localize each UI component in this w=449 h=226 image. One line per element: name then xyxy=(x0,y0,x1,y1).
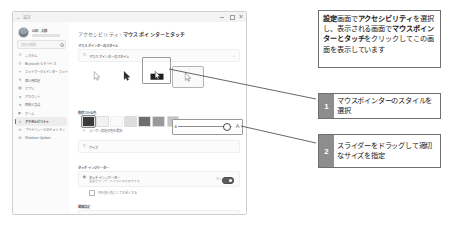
cursor-custom-icon xyxy=(185,72,192,82)
color-swatch[interactable] xyxy=(110,116,123,127)
accessibility-icon: ♿ xyxy=(18,120,22,124)
checkbox-label: 円を濃い色にして大きくする xyxy=(98,191,137,195)
chevron-down-icon[interactable]: ⌄ xyxy=(232,54,235,58)
sidebar-item-gaming[interactable]: ▶ ゲーム xyxy=(15,109,67,117)
sidebar-item-label: ゲーム xyxy=(25,111,34,116)
avatar xyxy=(18,27,29,38)
content-pane: アクセシビリティ›マウス ポインターとタッチ マウス ポインターのスタイル ⎋ … xyxy=(69,22,246,214)
color-swatches xyxy=(82,116,179,127)
step-text: スライダーをドラッグして適切なサイズを指定 xyxy=(334,135,440,167)
step-text: マウスポインターのスタイルを選択 xyxy=(334,94,440,118)
sidebar-item-bluetooth-devices[interactable]: ◎ Bluetooth とデバイス xyxy=(15,59,67,67)
window-controls xyxy=(219,14,244,19)
clock-icon: ★ xyxy=(18,103,22,107)
network-icon: ⌖ xyxy=(18,70,22,74)
sidebar-item-label: Windows Update xyxy=(25,136,51,140)
slider-thumb[interactable] xyxy=(223,123,231,131)
brush-icon: ✎ xyxy=(18,78,22,82)
touch-indicator-toggle[interactable] xyxy=(222,177,234,184)
color-swatch[interactable] xyxy=(96,116,109,127)
sidebar-item-label: システム xyxy=(25,53,37,58)
sidebar-item-privacy-security[interactable]: ⊖ プライバシーとセキュリティ xyxy=(15,126,67,134)
breadcrumb-parent[interactable]: アクセシビリティ xyxy=(78,31,119,37)
color-swatch[interactable] xyxy=(82,116,95,127)
sidebar-item-label: プライバシーとセキュリティ xyxy=(25,127,65,132)
color-swatch[interactable] xyxy=(138,116,151,127)
touch-icon: ◉ xyxy=(83,175,88,180)
checkbox[interactable] xyxy=(89,190,95,196)
gaming-icon: ▶ xyxy=(18,111,22,115)
window-title: 設定 xyxy=(23,14,31,20)
sidebar-item-label: 時刻と言語 xyxy=(25,102,40,107)
highlight-box-slider: A A xyxy=(172,119,243,135)
back-arrow-icon[interactable]: ← xyxy=(16,15,21,20)
search-icon xyxy=(60,43,63,46)
step-number: 1 xyxy=(319,94,334,118)
annotation-step-1: 1 マウスポインターのスタイルを選択 xyxy=(318,93,441,119)
touch-circle-checkbox-row[interactable]: 円を濃い色にして大きくする xyxy=(89,190,137,196)
shield-icon: ⊖ xyxy=(18,128,22,132)
system-icon: ☰ xyxy=(18,53,22,57)
sidebar-item-label: アカウント xyxy=(25,94,40,99)
custom-color-label: ユーザー設定の色を選択 xyxy=(89,128,122,133)
sidebar-item-apps[interactable]: ▤ アプリ xyxy=(15,84,67,92)
sidebar-nav: ☰ システム ◎ Bluetooth とデバイス ⌖ ネットワークとインターネッ… xyxy=(15,51,67,142)
related-row-mouse[interactable]: ⌖ マウス ボタン、速度、スクロール、ポインター › xyxy=(78,210,240,214)
account-block[interactable]: 山田 太郎 xyxy=(18,27,60,38)
sidebar-item-windows-update[interactable]: ⊞ Windows Update xyxy=(15,134,67,142)
section-heading-pointer-style: マウス ポインターのスタイル xyxy=(78,43,118,48)
search-placeholder: 設定の検索 xyxy=(21,42,36,47)
plus-icon: ＋ xyxy=(82,128,86,133)
search-input[interactable]: 設定の検索 xyxy=(17,40,66,49)
color-swatch[interactable] xyxy=(152,116,165,127)
section-heading-touch: タッチ インジケーター xyxy=(78,165,109,170)
apps-icon: ▤ xyxy=(18,86,22,90)
slider-min-label: A xyxy=(175,125,177,129)
sidebar-item-label: Bluetooth とデバイス xyxy=(25,61,56,66)
touch-indicator-sublabel: 画面をタッチしたときに円を表示する xyxy=(89,179,140,183)
sidebar-item-accessibility[interactable]: ♿ アクセシビリティ xyxy=(15,117,67,125)
sidebar: 山田 太郎 設定の検索 ☰ システム ◎ Bluetooth とデバイス xyxy=(13,22,70,214)
screenshot-frame: ← 設定 山田 太郎 設定の検索 xyxy=(0,0,449,226)
highlight-box-pointer-style xyxy=(142,57,171,84)
cursor-black-icon xyxy=(124,71,131,81)
sidebar-item-time-language[interactable]: ★ 時刻と言語 xyxy=(15,101,67,109)
sidebar-item-personalization[interactable]: ✎ 個人用設定 xyxy=(15,76,67,84)
annotation-step-2: 2 スライダーをドラッグして適切なサイズを指定 xyxy=(318,134,441,168)
slider-max-label: A xyxy=(236,123,240,129)
step-number: 2 xyxy=(319,135,334,167)
accounts-icon: ● xyxy=(18,95,22,99)
sidebar-item-label: 個人用設定 xyxy=(25,78,40,83)
annotation-main-text: 設定画面でアクセシビリティを選択し、表示される画面でマウスポインターとタッチをク… xyxy=(323,14,436,55)
sidebar-item-label: アプリ xyxy=(25,86,34,91)
breadcrumb: アクセシビリティ›マウス ポインターとタッチ xyxy=(78,30,185,37)
update-icon: ⊞ xyxy=(18,136,22,140)
pointer-style-label: マウス ポインターのスタイル xyxy=(89,54,129,59)
pointer-size-icon: ⎋ xyxy=(83,144,88,149)
account-name: 山田 太郎 xyxy=(32,28,60,33)
pointer-option-custom[interactable] xyxy=(172,66,204,88)
sidebar-item-system[interactable]: ☰ システム xyxy=(15,51,67,59)
section-heading-colors: 推奨される色 xyxy=(78,110,96,115)
sidebar-item-label: ネットワークとインターネット xyxy=(25,69,68,74)
settings-window: ← 設定 山田 太郎 設定の検索 xyxy=(12,11,247,215)
pointer-size-row: ⎋ サイズ xyxy=(78,140,240,153)
cursor-white-icon xyxy=(94,71,101,81)
minimize-button[interactable] xyxy=(219,14,224,19)
custom-color-button[interactable]: ＋ ユーザー設定の色を選択 xyxy=(82,128,122,133)
section-heading-related: 関連設定 xyxy=(78,204,90,209)
maximize-button[interactable] xyxy=(229,14,234,19)
sidebar-item-network-internet[interactable]: ⌖ ネットワークとインターネット xyxy=(15,68,67,76)
sidebar-item-label: アクセシビリティ xyxy=(25,119,49,124)
bluetooth-icon: ◎ xyxy=(18,61,22,65)
touch-indicator-row: ◉ タッチ インジケーター 画面をタッチしたときに円を表示する オン xyxy=(78,171,240,187)
color-swatch[interactable] xyxy=(124,116,137,127)
mouse-pointer-icon: ⎋ xyxy=(83,53,88,58)
account-email-masked xyxy=(32,34,60,37)
pointer-option-black[interactable] xyxy=(112,66,142,86)
sidebar-item-accounts[interactable]: ● アカウント xyxy=(15,92,67,100)
pointer-size-label: サイズ xyxy=(89,145,98,150)
pointer-option-white[interactable] xyxy=(82,66,112,86)
close-button[interactable] xyxy=(239,14,244,19)
annotation-main-note: 設定画面でアクセシビリティを選択し、表示される画面でマウスポインターとタッチをク… xyxy=(318,10,441,68)
